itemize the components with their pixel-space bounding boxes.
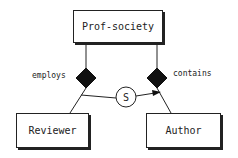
relationship-label-employs: employs: [32, 71, 66, 80]
entity-label: Prof-society: [82, 21, 154, 32]
relationship-diamond-contains[interactable]: [147, 68, 167, 88]
edge-s-to-contains-link: [136, 93, 155, 96]
entity-reviewer[interactable]: Reviewer: [16, 113, 89, 148]
edge-employs-link-to-s: [81, 95, 116, 98]
edge-employs-reviewer: [70, 88, 86, 113]
entity-label: Reviewer: [28, 125, 76, 136]
entity-label: Author: [165, 125, 201, 136]
entity-prof-society[interactable]: Prof-society: [73, 10, 163, 43]
relationship-diamond-employs[interactable]: [76, 68, 96, 88]
entity-author[interactable]: Author: [146, 113, 221, 148]
relationship-label-contains: contains: [173, 69, 212, 78]
subset-circle-label: S: [116, 87, 136, 107]
